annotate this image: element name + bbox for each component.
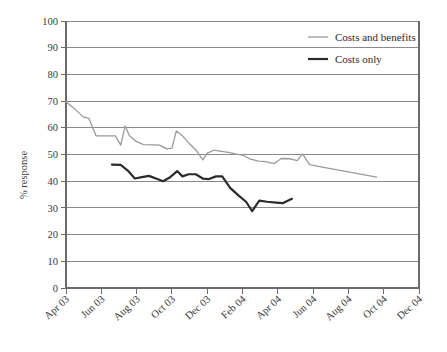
y-tick-label: 80: [48, 69, 59, 80]
y-tick-marks-group: [61, 21, 66, 288]
y-tick-labels-group: 0102030405060708090100: [42, 16, 58, 294]
chart-page: 0102030405060708090100 Apr 03Jun 03Aug 0…: [0, 0, 447, 352]
y-tick-label: 90: [48, 42, 59, 53]
x-tick-labels-group: Apr 03Jun 03Aug 03Oct 03Dec 03Feb 04Apr …: [42, 293, 425, 323]
y-tick-label: 30: [48, 203, 59, 214]
x-tick-label: Dec 03: [183, 293, 213, 321]
line-chart: 0102030405060708090100 Apr 03Jun 03Aug 0…: [0, 0, 447, 352]
y-tick-label: 60: [48, 122, 59, 133]
y-tick-label: 20: [48, 229, 59, 240]
series-line-1: [112, 165, 292, 211]
x-tick-label: Aug 04: [323, 293, 354, 323]
y-tick-label: 50: [48, 149, 59, 160]
x-tick-label: Jun 03: [79, 293, 107, 320]
y-tick-label: 0: [53, 283, 58, 294]
y-axis-title: % response: [18, 151, 29, 199]
x-tick-label: Apr 03: [42, 293, 71, 321]
x-tick-label: Oct 03: [149, 293, 177, 320]
y-tick-label: 100: [42, 16, 58, 27]
x-tick-label: Jun 04: [290, 293, 319, 320]
y-tick-label: 40: [48, 176, 59, 187]
data-series-group: [66, 102, 377, 211]
x-tick-label: Dec 04: [395, 293, 425, 322]
y-tick-label: 70: [48, 96, 59, 107]
x-tick-label: Oct 04: [361, 293, 390, 321]
x-tick-marks-group: [66, 288, 419, 294]
x-tick-label: Apr 04: [254, 293, 284, 321]
series-line-0: [66, 102, 377, 178]
x-tick-label: Feb 04: [219, 293, 248, 321]
x-tick-label: Aug 03: [111, 293, 142, 322]
y-tick-label: 10: [48, 256, 59, 267]
legend-label-1: Costs only: [335, 53, 382, 65]
legend-label-0: Costs and benefits: [335, 31, 416, 43]
